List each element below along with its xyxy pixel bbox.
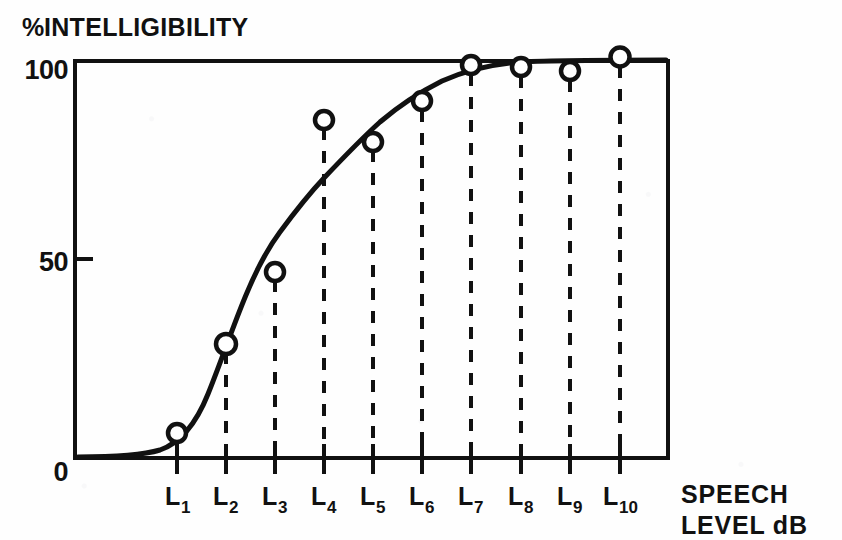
x-tick-label-L2: L 2: [213, 482, 238, 517]
data-point-L8[interactable]: [512, 58, 530, 76]
x-tick-label-L7: L 7: [458, 482, 483, 517]
x-tick-label-L7-sub: 7: [474, 498, 483, 517]
x-tick-label-L9-base: L: [557, 482, 572, 510]
x-tick-label-L10-base: L: [603, 482, 618, 510]
x-tick-label-L4-sub: 4: [327, 498, 337, 517]
drop-lines: [177, 66, 620, 456]
data-point-L2[interactable]: [216, 334, 236, 354]
data-point-L9[interactable]: [561, 62, 579, 80]
x-tick-label-L6-sub: 6: [425, 498, 434, 517]
x-tick-label-L9: L 9: [557, 482, 582, 517]
data-point-L10[interactable]: [611, 48, 630, 67]
x-tick-label-L5-base: L: [360, 482, 375, 510]
x-tick-label-L5-sub: 5: [376, 498, 385, 517]
x-tick-label-L10: L 10: [603, 482, 638, 517]
x-tick-label-L3-base: L: [262, 482, 277, 510]
y-tick-label-0: 0: [53, 457, 68, 487]
x-axis-title-line1: SPEECH: [681, 480, 789, 508]
data-point-L4[interactable]: [315, 111, 333, 129]
x-tick-label-L1-sub: 1: [181, 498, 190, 517]
data-point-L5[interactable]: [364, 133, 382, 151]
x-tick-label-L3: L 3: [262, 482, 287, 517]
figure-canvas: 100 50 0 % INTELLIGIBILITY: [0, 0, 842, 540]
intelligibility-chart: 100 50 0 % INTELLIGIBILITY: [0, 0, 842, 540]
x-tick-label-L9-sub: 9: [573, 498, 582, 517]
x-tick-label-L4: L 4: [311, 482, 337, 517]
x-axis-title: SPEECH LEVEL dB: [681, 480, 808, 539]
chart-title-group: % INTELLIGIBILITY: [22, 13, 249, 41]
x-tick-labels: L 1 L 2 L 3 L 4 L 5 L 6: [165, 482, 638, 517]
data-point-L6[interactable]: [413, 92, 431, 110]
x-tick-label-L5: L 5: [360, 482, 385, 517]
plot-frame: [73, 59, 670, 459]
x-tick-label-L2-sub: 2: [229, 498, 238, 517]
y-tick-label-50: 50: [39, 247, 68, 277]
x-tick-label-L3-sub: 3: [278, 498, 287, 517]
percent-symbol: %: [22, 13, 45, 41]
x-tick-label-L1: L 1: [165, 482, 190, 517]
x-tick-label-L6: L 6: [409, 482, 434, 517]
x-tick-label-L7-base: L: [458, 482, 473, 510]
data-point-L7[interactable]: [462, 56, 480, 74]
x-tick-label-L2-base: L: [213, 482, 228, 510]
x-tick-label-L8-sub: 8: [524, 498, 533, 517]
x-tick-label-L6-base: L: [409, 482, 424, 510]
x-tick-label-L8: L 8: [508, 482, 533, 517]
x-tick-label-L10-sub: 10: [619, 498, 638, 517]
x-tick-label-L1-base: L: [165, 482, 180, 510]
x-tick-label-L8-base: L: [508, 482, 523, 510]
x-tick-label-L4-base: L: [311, 482, 326, 510]
sigmoid-curve: [78, 60, 666, 457]
x-axis-title-line2: LEVEL dB: [681, 511, 808, 539]
data-point-L3[interactable]: [266, 263, 284, 281]
data-point-L1[interactable]: [168, 424, 186, 442]
x-tick-marks-lower: [177, 460, 620, 474]
y-tick-labels: 100 50 0: [24, 55, 68, 487]
y-tick-label-100: 100: [24, 55, 68, 85]
x-tick-marks-upper: [177, 444, 620, 458]
page-title: INTELLIGIBILITY: [44, 13, 249, 41]
